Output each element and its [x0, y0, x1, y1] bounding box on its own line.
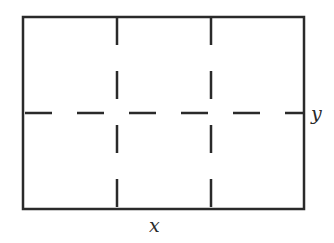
diagram-canvas [0, 0, 334, 243]
label-x: x [149, 216, 160, 235]
label-y: y [311, 104, 322, 123]
outer-rectangle [23, 17, 304, 209]
